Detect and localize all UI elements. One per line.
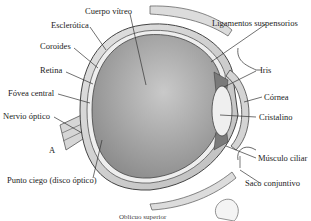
muscle-cut xyxy=(215,199,238,221)
label-ligamentos: Ligamentos suspensorios xyxy=(212,19,298,28)
label-iris: Iris xyxy=(260,66,271,75)
label-a-marker: A xyxy=(49,146,55,155)
label-punto-ciego: Punto ciego (disco óptico) xyxy=(7,176,96,185)
label-esclerotica: Esclerótica xyxy=(51,21,89,30)
label-cuerpo-vitreo: Cuerpo vítreo xyxy=(85,7,132,16)
label-oblicuo-cut: Oblicuo superior xyxy=(119,214,166,221)
label-nervio-optico: Nervio óptico xyxy=(3,112,50,121)
label-musculo-ciliar: Músculo ciliar xyxy=(258,154,307,163)
label-retina: Retina xyxy=(40,66,62,75)
label-coroides: Coroides xyxy=(40,42,71,51)
lens xyxy=(212,86,232,136)
label-fovea-central: Fóvea central xyxy=(8,89,54,98)
label-saco-conjuntivo: Saco conjuntivo xyxy=(245,179,300,188)
label-cristalino: Cristalino xyxy=(259,113,293,122)
label-cornea: Córnea xyxy=(264,93,289,102)
